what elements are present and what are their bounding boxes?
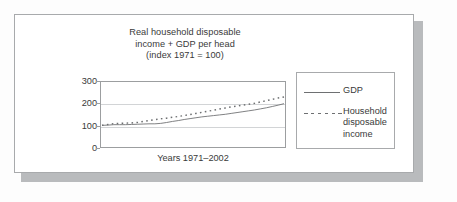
legend-item-gdp: GDP bbox=[302, 85, 363, 97]
series-canvas bbox=[101, 82, 285, 147]
plot-frame bbox=[100, 81, 286, 148]
series-line-household-disposable-income bbox=[102, 97, 284, 125]
ytick-label-300: 300 bbox=[71, 77, 97, 86]
plot-area: 300 200 100 0 Years 1971–2002 bbox=[86, 81, 286, 163]
ytick-label-0: 0 bbox=[71, 144, 97, 153]
chart-title: Real household disposable income + GDP p… bbox=[55, 27, 315, 62]
legend-label-household-disposable-income: Household disposable income bbox=[343, 106, 387, 140]
legend-swatch-dashed-line-icon bbox=[302, 109, 342, 118]
chart-title-line-2: income + GDP per head bbox=[55, 39, 315, 51]
legend-box: GDP Household disposable income bbox=[296, 72, 395, 149]
ytick-mark-0 bbox=[96, 148, 100, 149]
legend-swatch-solid-line-icon bbox=[302, 88, 342, 97]
legend-label-gdp: GDP bbox=[343, 85, 363, 96]
ytick-label-200: 200 bbox=[71, 99, 97, 108]
series-line-gdp bbox=[102, 104, 284, 126]
ytick-label-100: 100 bbox=[71, 122, 97, 131]
chart-title-line-3: (index 1971 = 100) bbox=[55, 50, 315, 62]
xaxis-caption: Years 1971–2002 bbox=[100, 153, 286, 163]
chart-card: Real household disposable income + GDP p… bbox=[14, 14, 414, 173]
legend-item-household-disposable-income: Household disposable income bbox=[302, 106, 387, 140]
chart-title-line-1: Real household disposable bbox=[55, 27, 315, 39]
